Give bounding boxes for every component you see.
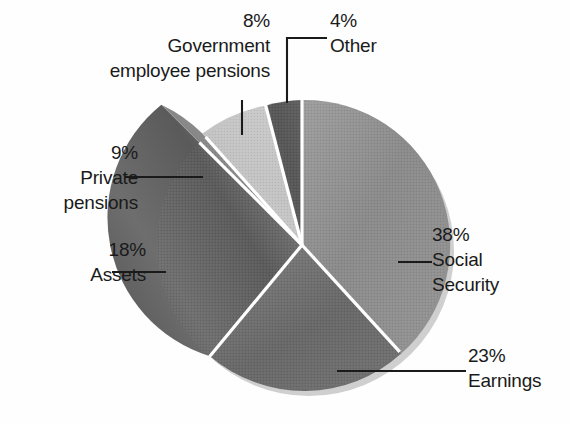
slice-percent-government-employee-pensions: 8% (18, 8, 270, 33)
slice-name-government-employee-pensions-line2: employee pensions (18, 58, 270, 83)
slice-name-other: Other (330, 33, 470, 58)
slice-percent-other: 4% (330, 8, 470, 33)
leader-line-other (287, 38, 327, 103)
slice-label-assets: 18% Assets (10, 237, 146, 287)
slice-name-social-security-line2: Security (432, 272, 562, 297)
slice-percent-assets: 18% (10, 237, 146, 262)
slice-percent-private-pensions: 9% (10, 140, 138, 165)
pie-chart-figure: 8% Government employee pensions 4% Other… (0, 0, 570, 424)
slice-label-earnings: 23% Earnings (468, 343, 568, 393)
slice-percent-social-security: 38% (432, 222, 562, 247)
slice-name-assets: Assets (10, 262, 146, 287)
slice-label-private-pensions: 9% Private pensions (10, 140, 138, 215)
slice-name-private-pensions-line1: Private (10, 165, 138, 190)
slice-label-other: 4% Other (330, 8, 470, 58)
slice-name-government-employee-pensions-line1: Government (18, 33, 270, 58)
slice-percent-earnings: 23% (468, 343, 568, 368)
slice-name-earnings: Earnings (468, 368, 568, 393)
slice-name-social-security-line1: Social (432, 247, 562, 272)
slice-name-private-pensions-line2: pensions (10, 190, 138, 215)
slice-label-government-employee-pensions: 8% Government employee pensions (18, 8, 270, 83)
slice-label-social-security: 38% Social Security (432, 222, 562, 297)
